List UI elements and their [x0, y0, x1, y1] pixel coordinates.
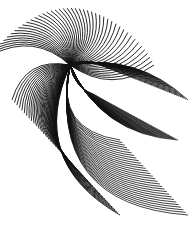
- right-dense-band-curve: [70, 65, 178, 140]
- string-art-canvas: [0, 0, 193, 227]
- right-dense-band-curve: [70, 65, 172, 137]
- curve-group: [0, 8, 188, 215]
- right-dense-band-curve: [70, 65, 170, 136]
